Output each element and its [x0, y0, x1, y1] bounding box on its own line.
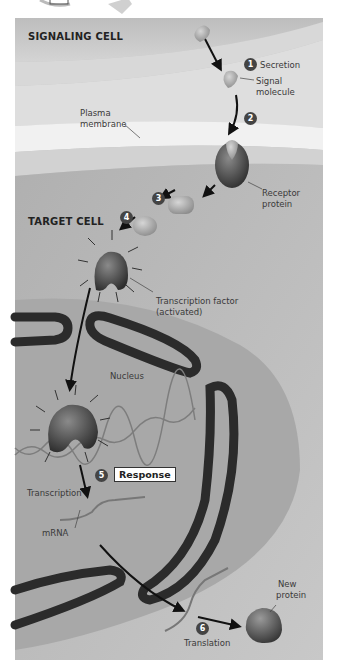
step-3-badge: 3: [152, 192, 165, 205]
transcription-factor-label-2: (activated): [156, 307, 202, 317]
response-label: Response: [114, 467, 176, 482]
receptor-protein-label-1: Receptor: [262, 188, 300, 198]
new-protein-label-2: protein: [276, 590, 306, 600]
relay-molecule-icon: [168, 196, 194, 214]
signal-molecule-label-1: Signal: [256, 76, 282, 86]
plasma-membrane-label-1: Plasma: [80, 108, 111, 118]
signal-molecule-label-2: molecule: [256, 87, 295, 97]
step-5-badge: 5: [95, 469, 108, 482]
step-4-badge: 4: [120, 211, 133, 224]
step-6-badge: 6: [196, 622, 209, 635]
new-protein-label-1: New: [278, 579, 297, 589]
nucleus-label: Nucleus: [110, 371, 144, 381]
translation-label: Translation: [184, 638, 230, 648]
signaling-cell-title: SIGNALING CELL: [28, 31, 123, 42]
diagram-canvas: [0, 0, 337, 664]
top-artifact: [40, 0, 132, 14]
new-protein-icon: [246, 608, 282, 643]
target-cell-title: TARGET CELL: [28, 216, 104, 227]
relay-molecule-icon: [133, 216, 157, 236]
cell-signaling-diagram: SIGNALING CELL TARGET CELL 1 Secretion S…: [0, 0, 337, 664]
transcription-label: Transcription: [27, 488, 82, 498]
step-2-badge: 2: [244, 112, 257, 125]
plasma-membrane-label-2: membrane: [80, 119, 127, 129]
secretion-label: Secretion: [260, 60, 300, 70]
transcription-factor-label-1: Transcription factor: [156, 296, 238, 306]
mrna-label: mRNA: [42, 528, 68, 538]
receptor-protein-label-2: protein: [262, 199, 292, 209]
step-1-badge: 1: [244, 58, 257, 71]
